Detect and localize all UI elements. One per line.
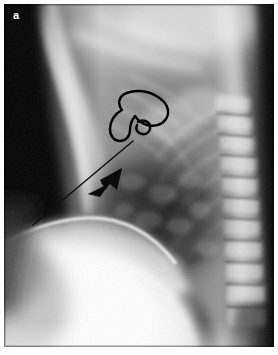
radiograph-canvas	[4, 4, 274, 347]
scan-texture	[4, 4, 274, 347]
chest-radiograph-image	[4, 4, 274, 347]
figure-panel-a: a	[0, 0, 278, 355]
panel-letter-label: a	[10, 9, 22, 22]
